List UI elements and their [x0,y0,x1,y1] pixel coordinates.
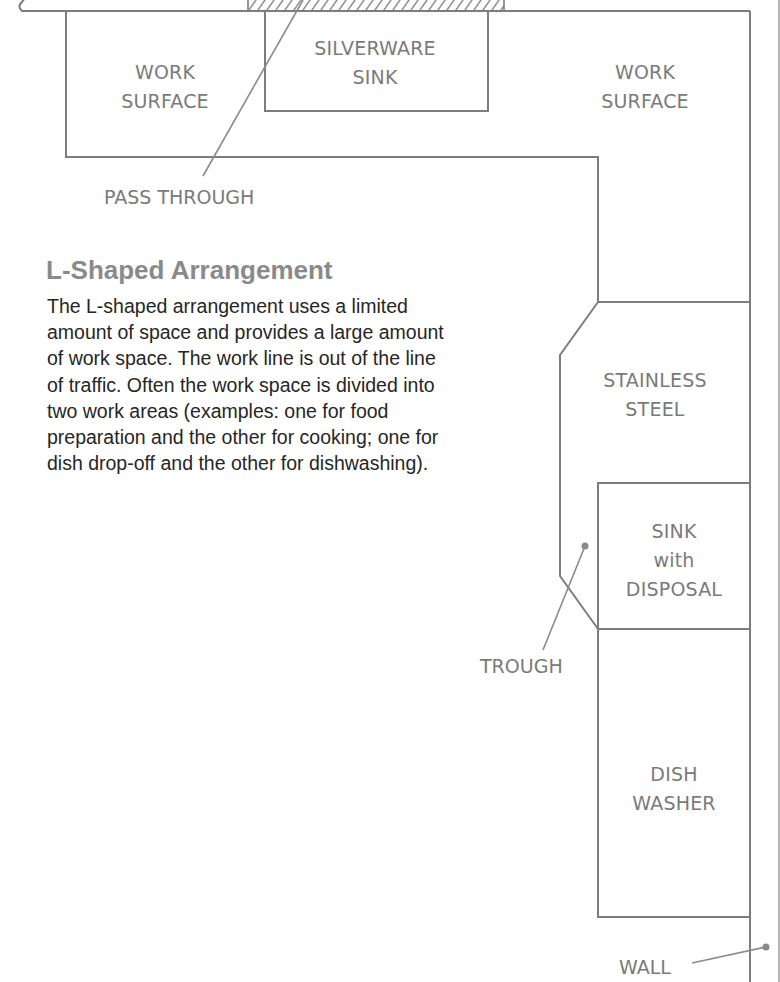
sink-with-disposal-label: SINK with DISPOSAL [598,517,750,604]
work-surface-left-label: WORK SURFACE [100,58,230,116]
section-description: The L-shaped arrangement uses a limited … [47,293,447,476]
stainless-steel-label: STAINLESS STEEL [580,366,730,424]
work-surface-right-label: WORK SURFACE [580,58,710,116]
silverware-sink-label: SILVERWARE SINK [280,34,470,92]
wall-leader-dot [763,944,770,951]
wall-leader [692,947,766,963]
pass-through-callout: PASS THROUGH [104,186,254,208]
section-heading: L-Shaped Arrangement [46,253,333,287]
trough-leader [543,546,585,650]
trough-leader-dot [582,543,589,550]
trough-callout: TROUGH [480,655,563,677]
wall-callout: WALL [619,956,671,978]
dish-washer-label: DISH WASHER [598,760,750,818]
l-shaped-layout-diagram [0,0,780,982]
pass-through-opening [248,0,504,11]
